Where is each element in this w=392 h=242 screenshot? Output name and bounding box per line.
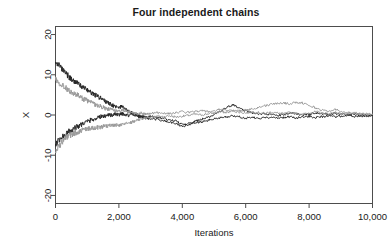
series-line-chain-2-light-high bbox=[56, 77, 373, 115]
x-axis-tick-label: 0 bbox=[53, 211, 58, 222]
y-axis-tick-label: 20 bbox=[42, 29, 53, 40]
y-axis-tick-label: -20 bbox=[42, 189, 53, 203]
x-axis-tick-label: 4,000 bbox=[170, 211, 194, 222]
chart-figure: Four independent chains 02,0004,0006,000… bbox=[0, 0, 392, 242]
y-axis-tick-label: 0 bbox=[42, 112, 53, 117]
x-axis-title: Iterations bbox=[194, 227, 233, 238]
chart-plot-area: 02,0004,0006,0008,00010,000-20-1001020It… bbox=[0, 0, 392, 242]
y-axis-title: X bbox=[20, 111, 31, 118]
x-axis-tick-label: 10,000 bbox=[358, 211, 387, 222]
y-axis-tick-label: -10 bbox=[42, 148, 53, 162]
x-axis-tick-label: 2,000 bbox=[107, 211, 131, 222]
y-axis-tick-label: 10 bbox=[42, 69, 53, 80]
x-axis-tick-label: 8,000 bbox=[297, 211, 321, 222]
x-axis-tick-label: 6,000 bbox=[234, 211, 258, 222]
series-line-chain-3-dark-low bbox=[56, 112, 373, 146]
